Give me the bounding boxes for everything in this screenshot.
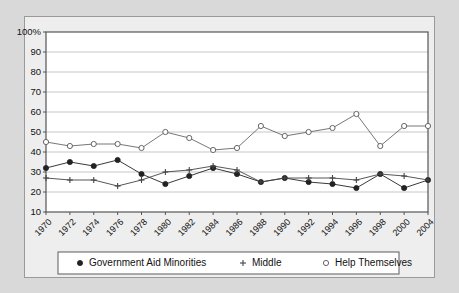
marker-open-circle [43, 139, 48, 144]
marker-filled-circle [43, 165, 48, 170]
marker-filled-circle [77, 260, 82, 265]
x-axis-label-1970: 1970 [33, 217, 54, 238]
y-axis-label-70: 70 [30, 86, 41, 97]
legend-label-1: Middle [252, 257, 282, 268]
y-axis-label-50: 50 [30, 126, 41, 137]
x-axis-label-1984: 1984 [200, 217, 221, 238]
x-axis-label-2000: 2000 [391, 217, 412, 238]
marker-open-circle [115, 141, 120, 146]
x-axis-label-1992: 1992 [295, 217, 316, 238]
marker-open-circle [282, 133, 287, 138]
marker-filled-circle [354, 185, 359, 190]
y-axis-label-60: 60 [30, 106, 41, 117]
marker-open-circle [258, 123, 263, 128]
y-axis-label-100: 100% [17, 26, 42, 37]
x-axis-label-1980: 1980 [152, 217, 173, 238]
marker-filled-circle [330, 181, 335, 186]
marker-open-circle [354, 111, 359, 116]
y-axis-label-40: 40 [30, 146, 41, 157]
y-axis-label-90: 90 [30, 46, 41, 57]
x-axis-label-1990: 1990 [271, 217, 292, 238]
y-axis-label-20: 20 [30, 186, 41, 197]
marker-filled-circle [402, 185, 407, 190]
chart-legend: Government Aid MinoritiesMiddleHelp Them… [58, 252, 412, 274]
x-axis-label-1978: 1978 [128, 217, 149, 238]
marker-open-circle [67, 143, 72, 148]
marker-open-circle [306, 129, 311, 134]
plot-background [46, 32, 428, 212]
marker-open-circle [91, 141, 96, 146]
legend-label-0: Government Aid Minorities [89, 257, 206, 268]
x-axis-label-1972: 1972 [56, 217, 77, 238]
marker-filled-circle [115, 157, 120, 162]
x-axis-label-2004: 2004 [415, 217, 436, 238]
x-axis-label-1988: 1988 [247, 217, 268, 238]
marker-filled-circle [67, 159, 72, 164]
x-axis-label-1986: 1986 [224, 217, 245, 238]
marker-filled-circle [187, 173, 192, 178]
marker-open-circle [187, 135, 192, 140]
marker-filled-circle [139, 171, 144, 176]
chart-svg: 100%908070605040302010197019721974197619… [0, 0, 459, 293]
x-axis-label-1996: 1996 [343, 217, 364, 238]
chart-figure: 100%908070605040302010197019721974197619… [0, 0, 459, 293]
marker-open-circle [139, 145, 144, 150]
marker-filled-circle [91, 163, 96, 168]
marker-open-circle [323, 260, 328, 265]
marker-filled-circle [163, 181, 168, 186]
legend-label-2: Help Themselves [335, 257, 412, 268]
marker-open-circle [330, 125, 335, 130]
x-axis-label-1998: 1998 [367, 217, 388, 238]
marker-open-circle [234, 145, 239, 150]
marker-open-circle [402, 123, 407, 128]
x-axis-label-1994: 1994 [319, 217, 340, 238]
x-axis-label-1982: 1982 [176, 217, 197, 238]
y-axis-label-80: 80 [30, 66, 41, 77]
y-axis-label-30: 30 [30, 166, 41, 177]
x-axis-label-1974: 1974 [80, 217, 101, 238]
marker-open-circle [163, 129, 168, 134]
y-axis-label-10: 10 [30, 206, 41, 217]
marker-open-circle [211, 147, 216, 152]
marker-open-circle [425, 123, 430, 128]
x-axis-label-1976: 1976 [104, 217, 125, 238]
marker-open-circle [378, 143, 383, 148]
